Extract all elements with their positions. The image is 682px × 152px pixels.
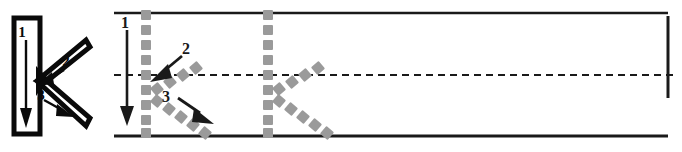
trace-stroke-1-number: 1 bbox=[121, 14, 129, 31]
practice-row-panel: 1 2 3 bbox=[108, 0, 682, 152]
trace-stroke-2-arrow bbox=[150, 56, 182, 82]
trace-stroke-1-arrow bbox=[120, 30, 134, 126]
model-stroke-3-number: 3 bbox=[37, 87, 45, 103]
model-stroke-1-number: 1 bbox=[18, 24, 26, 40]
handwriting-worksheet: Letter K stroke order handwriting practi… bbox=[0, 0, 682, 152]
model-letter-panel: 1 2 3 bbox=[0, 0, 108, 152]
trace-stroke-3-number: 3 bbox=[162, 88, 170, 105]
trace-stroke-2-number: 2 bbox=[182, 40, 190, 57]
model-stroke-2-number: 2 bbox=[62, 53, 70, 69]
